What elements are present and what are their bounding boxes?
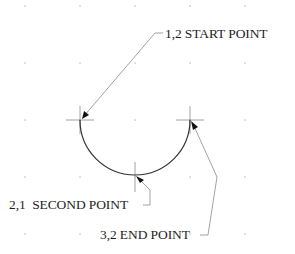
grid-dot (134, 5, 135, 6)
leader-start (84, 33, 163, 116)
grid-dot (189, 176, 190, 177)
grid-dot (24, 5, 25, 6)
grid-dot (134, 62, 135, 63)
label-second-point: 2,1 SECOND POINT (9, 198, 128, 212)
arrowhead-second-icon (136, 176, 144, 183)
label-end-point: 3,2 END POINT (100, 228, 190, 242)
grid-dot (79, 62, 80, 63)
grid-dot (24, 62, 25, 63)
grid-dot (189, 62, 190, 63)
grid-dot (24, 176, 25, 177)
grid-dot (244, 233, 245, 234)
grid-dot (244, 119, 245, 120)
grid-dot (244, 176, 245, 177)
arrowhead-end-icon (191, 121, 198, 130)
grid-dot (189, 5, 190, 6)
grid-dot (24, 119, 25, 120)
grid-dot (79, 176, 80, 177)
grid-dot (24, 233, 25, 234)
leader-end (193, 124, 217, 235)
grid-dot (79, 5, 80, 6)
arrowhead-start-icon (82, 111, 89, 119)
grid-dot (244, 5, 245, 6)
grid-dot (79, 233, 80, 234)
label-start-point: 1,2 START POINT (165, 27, 268, 41)
grid-dot (134, 119, 135, 120)
grid-dot (244, 62, 245, 63)
